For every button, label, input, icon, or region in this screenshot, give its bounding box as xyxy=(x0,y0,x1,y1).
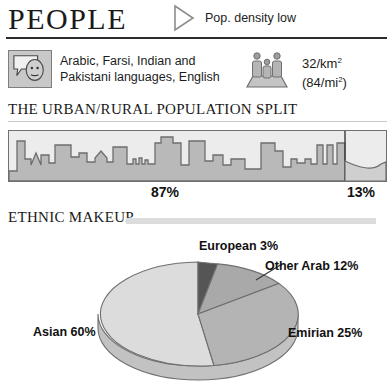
ethnic-heading-divider xyxy=(126,218,376,224)
triangle-right-icon xyxy=(172,4,196,32)
header-divider xyxy=(6,37,387,39)
speech-face-icon xyxy=(8,50,52,88)
density-imperial-close: ) xyxy=(343,76,347,91)
urban-percent-label: 87% xyxy=(135,184,195,200)
urban-rural-divider xyxy=(8,121,387,122)
ethnic-makeup-heading: ETHNIC MAKEUP xyxy=(8,209,134,226)
population-density-value: 32/km2 (84/mi2) xyxy=(302,53,347,92)
density-metric-exponent: 2 xyxy=(337,56,341,65)
urban-rural-heading: THE URBAN/RURAL POPULATION SPLIT xyxy=(8,101,297,118)
people-group-icon xyxy=(243,50,291,90)
rural-percent-label: 13% xyxy=(336,184,386,200)
pie-label-asian: Asian 60% xyxy=(33,325,96,339)
page-title: PEOPLE xyxy=(8,2,127,36)
pie-label-european: European 3% xyxy=(199,239,278,253)
languages-text: Arabic, Farsi, Indian and Pakistani lang… xyxy=(60,53,235,85)
pie-label-other-arab: Other Arab 12% xyxy=(265,259,358,273)
urban-rural-split-bar xyxy=(8,130,387,182)
density-metric: 32/km xyxy=(302,56,337,71)
density-imperial-open: (84/mi xyxy=(302,76,338,91)
pie-label-emirian: Emirian 25% xyxy=(288,326,362,340)
pop-density-label: Pop. density low xyxy=(205,11,296,25)
